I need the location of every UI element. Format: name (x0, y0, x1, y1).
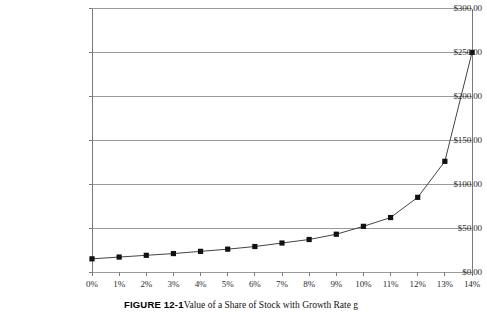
data-point-marker (171, 251, 176, 256)
chart-plot-svg (0, 0, 482, 296)
data-point-marker (361, 224, 366, 229)
data-point-marker (144, 253, 149, 258)
data-point-marker (388, 215, 393, 220)
line-chart: $0.00$50.00$100.00$150.00$200.00$250.00$… (0, 0, 482, 296)
y-tick-label: $0.00 (396, 268, 482, 277)
y-tick-label: $300.00 (396, 4, 482, 13)
data-point-marker (252, 244, 257, 249)
figure-caption: FIGURE 12-1Value of a Share of Stock wit… (0, 299, 482, 311)
data-point-marker (198, 249, 203, 254)
data-point-marker (442, 159, 447, 164)
data-point-marker (307, 237, 312, 242)
y-tick-label: $50.00 (396, 224, 482, 233)
y-tick-label: $250.00 (396, 48, 482, 57)
data-point-marker (117, 254, 122, 259)
data-point-marker (225, 247, 230, 252)
data-point-marker (415, 195, 420, 200)
x-tick-label: 14% (452, 280, 487, 289)
y-tick-label: $200.00 (396, 92, 482, 101)
figure-caption-text: Value of a Share of Stock with Growth Ra… (184, 300, 358, 310)
y-tick-label: $150.00 (396, 136, 482, 145)
figure-caption-label: FIGURE 12-1 (124, 299, 184, 310)
y-tick-label: $100.00 (396, 180, 482, 189)
data-point-marker (334, 232, 339, 237)
data-point-marker (279, 240, 284, 245)
data-point-marker (89, 256, 94, 261)
